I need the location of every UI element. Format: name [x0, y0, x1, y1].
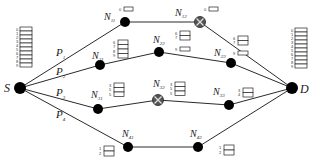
svg-text:9: 9	[233, 51, 236, 56]
buffer-n42: 12	[219, 145, 234, 155]
edge-n21-n22	[100, 52, 159, 65]
label-n22: N22	[152, 34, 165, 46]
node-n23	[226, 58, 236, 68]
svg-text:4: 4	[238, 92, 241, 97]
path-label-p2: P2	[55, 65, 66, 79]
svg-text:7: 7	[233, 40, 236, 45]
label-n23: N23	[213, 47, 226, 59]
svg-text:5: 5	[109, 92, 112, 97]
buffer-n11: 0	[119, 7, 133, 12]
label-n42: N42	[189, 128, 202, 140]
label-n41: N41	[121, 128, 134, 140]
node-n42	[193, 142, 203, 152]
node-labels: S D N11 N12 N21 N22 N23 N31 N32 N33 N41 …	[4, 7, 309, 140]
network-diagram: P1 P2 P3 P4 01 23 45 67 89 01 23 45 67 8…	[0, 0, 314, 168]
path-label-p1: P1	[55, 46, 65, 60]
node-n32-failed	[153, 95, 164, 106]
svg-text:0: 0	[204, 7, 207, 12]
label-d: D	[299, 82, 309, 96]
svg-text:7: 7	[175, 35, 178, 40]
node-d	[286, 82, 298, 94]
label-n12: N12	[174, 7, 187, 19]
node-n41	[123, 142, 133, 152]
svg-text:0: 0	[119, 7, 122, 12]
buffer-n12: 0	[204, 7, 218, 12]
buffer-n32: 35 5	[170, 82, 185, 96]
path-labels: P1 P2 P3 P4	[55, 46, 66, 122]
path-label-p4: P4	[55, 108, 66, 122]
buffer-n22: 67 9	[175, 31, 190, 52]
label-n21: N21	[91, 50, 104, 62]
svg-text:9: 9	[175, 47, 178, 52]
node-n31	[93, 104, 103, 114]
buffer-n23: 67 9	[233, 36, 248, 56]
svg-text:9: 9	[16, 63, 19, 68]
edge-n23-d	[231, 63, 292, 88]
node-n22	[154, 47, 164, 57]
svg-text:9: 9	[291, 64, 294, 69]
edge-n31-n32	[98, 100, 158, 109]
node-n11	[120, 17, 130, 27]
label-n32: N32	[152, 78, 165, 90]
svg-text:5: 5	[170, 91, 173, 96]
buffer-s: 01 23 45 67 89	[16, 27, 32, 68]
label-s: S	[4, 81, 10, 95]
buffer-n31: 35 5	[109, 83, 124, 97]
label-n33: N33	[212, 86, 225, 98]
buffer-n21: 67 89	[113, 40, 128, 59]
path-label-p3: P3	[55, 86, 66, 100]
svg-text:2: 2	[219, 150, 222, 155]
buffer-n33: 34	[238, 88, 253, 98]
edge-s-n11	[20, 22, 125, 88]
edge-s-n41	[20, 88, 128, 147]
edge-n32-n33	[158, 100, 229, 105]
svg-text:2: 2	[99, 151, 102, 156]
buffer-n41: 12	[99, 146, 114, 156]
label-n11: N11	[103, 11, 115, 23]
buffer-d: 01 23 45 67 89	[291, 28, 307, 69]
node-s	[14, 82, 26, 94]
node-n33	[224, 100, 234, 110]
label-n31: N31	[90, 89, 103, 101]
node-n12-failed	[195, 17, 206, 28]
svg-text:9: 9	[113, 53, 116, 58]
